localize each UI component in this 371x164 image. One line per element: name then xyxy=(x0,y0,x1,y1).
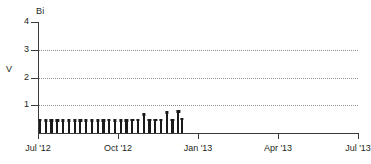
y-axis-tick xyxy=(31,105,38,106)
series-title-label: Bi xyxy=(36,6,44,16)
data-marker-cap xyxy=(90,119,93,122)
data-marker-cap xyxy=(131,119,134,122)
data-marker-cap xyxy=(154,119,157,122)
y-axis-tick-label: 1 xyxy=(18,100,29,109)
y-axis-tick xyxy=(31,50,38,51)
data-marker xyxy=(166,111,168,133)
data-marker-cap xyxy=(180,118,183,121)
data-marker-cap xyxy=(67,119,70,122)
data-marker-cap xyxy=(102,119,105,122)
data-marker-cap xyxy=(44,119,47,122)
x-axis-tick xyxy=(198,133,199,139)
x-axis-tick-label: Jan '13 xyxy=(184,144,213,153)
x-axis-tick xyxy=(38,133,39,139)
data-marker-cap xyxy=(73,119,76,122)
data-marker-cap xyxy=(119,119,122,122)
x-axis-tick xyxy=(118,133,119,139)
y-axis-tick-label: 2 xyxy=(18,73,29,82)
data-marker-cap xyxy=(84,119,87,122)
data-marker-cap xyxy=(125,119,128,122)
y-axis-label: V xyxy=(6,64,12,74)
data-marker-cap xyxy=(171,119,174,122)
data-marker-cap xyxy=(165,111,168,114)
y-axis-tick xyxy=(31,78,38,79)
data-marker-cap xyxy=(79,119,82,122)
data-marker-cap xyxy=(50,119,53,122)
y-axis-tick-label: 3 xyxy=(18,45,29,54)
data-marker-cap xyxy=(61,119,64,122)
data-marker-cap xyxy=(56,119,59,122)
x-axis-tick xyxy=(358,133,359,139)
data-marker-cap xyxy=(148,119,151,122)
x-axis-tick-label: Jul '13 xyxy=(345,144,371,153)
data-marker xyxy=(177,110,179,133)
y-axis-tick-label: 4 xyxy=(18,17,29,26)
data-marker-cap xyxy=(177,110,180,113)
plot-area xyxy=(38,22,358,133)
data-marker-cap xyxy=(38,119,41,122)
x-axis-tick-label: Oct '12 xyxy=(104,144,132,153)
data-marker-cap xyxy=(136,119,139,122)
data-marker-cap xyxy=(96,119,99,122)
data-marker-cap xyxy=(159,119,162,122)
data-marker-cap xyxy=(142,113,145,116)
x-axis-tick-label: Apr '13 xyxy=(264,144,292,153)
data-marker xyxy=(143,113,145,133)
data-marker-cap xyxy=(107,119,110,122)
y-axis-tick xyxy=(31,22,38,23)
data-marker-cap xyxy=(113,119,116,122)
x-axis-tick xyxy=(278,133,279,139)
x-axis-tick-label: Jul '12 xyxy=(25,144,51,153)
